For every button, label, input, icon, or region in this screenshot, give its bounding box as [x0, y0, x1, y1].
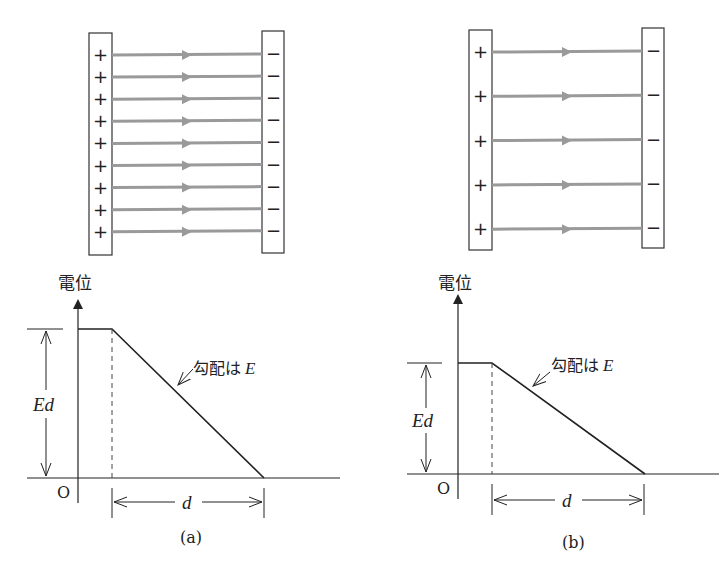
axis-label-potential-a: 電位: [58, 273, 92, 293]
field-arrow-icon: [562, 91, 572, 101]
plus-charge: +: [93, 199, 108, 220]
capacitor-potential-diagram: +−+−+−+−+−+−+−+−+− +−+−+−+−+− 電位 Ed O d …: [0, 0, 728, 572]
plus-charge: +: [473, 130, 488, 151]
field-arrow-icon: [182, 161, 192, 171]
minus-charge: −: [266, 131, 281, 152]
minus-charge: −: [266, 65, 281, 86]
minus-charge: −: [266, 154, 281, 175]
minus-charge: −: [266, 220, 281, 241]
caption-b: (b): [562, 533, 585, 552]
field-arrow-icon: [182, 94, 192, 104]
field-lines-b: +−+−+−+−+−: [473, 40, 661, 239]
plus-charge: +: [93, 177, 108, 198]
potential-graph-a: 電位 Ed O d 勾配は E (a): [27, 273, 340, 547]
plus-charge: +: [93, 221, 108, 242]
slope-pointer-a: [178, 369, 193, 385]
minus-charge: −: [266, 198, 281, 219]
plus-charge: +: [93, 66, 108, 87]
minus-charge: −: [266, 87, 281, 108]
slope-label-a: 勾配は: [193, 359, 241, 378]
origin-label-a: O: [57, 483, 70, 502]
field-arrow-icon: [562, 136, 572, 146]
plus-charge: +: [473, 174, 488, 195]
potential-graph-b: 電位 Ed O d 勾配は E (b): [407, 273, 719, 552]
capacitor-a: +−+−+−+−+−+−+−+−+−: [89, 31, 284, 255]
plus-charge: +: [93, 155, 108, 176]
d-label-a: d: [182, 492, 192, 513]
field-arrow-icon: [182, 205, 192, 215]
field-arrow-icon: [182, 72, 192, 82]
slope-label-b: 勾配は: [551, 356, 599, 375]
field-arrow-icon: [182, 138, 192, 148]
field-arrow-icon: [182, 183, 192, 193]
field-arrow-icon: [562, 224, 572, 234]
field-arrow-icon: [182, 50, 192, 60]
field-arrow-icon: [562, 180, 572, 190]
minus-charge: −: [646, 40, 661, 61]
slope-symbol-a: E: [244, 359, 256, 378]
minus-charge: −: [646, 129, 661, 150]
origin-label-b: O: [437, 479, 450, 498]
axis-label-potential-b: 電位: [438, 273, 472, 293]
minus-charge: −: [646, 173, 661, 194]
plus-charge: +: [93, 110, 108, 131]
minus-charge: −: [266, 176, 281, 197]
minus-charge: −: [266, 109, 281, 130]
slope-pointer-b: [533, 372, 550, 386]
plus-charge: +: [93, 132, 108, 153]
minus-charge: −: [646, 217, 661, 238]
potential-curve-a: [78, 329, 264, 478]
plus-charge: +: [93, 44, 108, 65]
field-arrow-icon: [562, 47, 572, 57]
plus-charge: +: [473, 41, 488, 62]
caption-a: (a): [180, 528, 202, 547]
slope-symbol-b: E: [602, 356, 614, 375]
plus-charge: +: [93, 88, 108, 109]
field-lines-a: +−+−+−+−+−+−+−+−+−: [93, 43, 281, 242]
ed-label-a: Ed: [32, 394, 55, 415]
d-label-b: d: [562, 490, 572, 511]
plus-charge: +: [473, 85, 488, 106]
capacitor-b: +−+−+−+−+−: [469, 28, 664, 250]
minus-charge: −: [266, 43, 281, 64]
ed-label-b: Ed: [411, 410, 434, 431]
potential-curve-b: [458, 363, 645, 474]
plus-charge: +: [473, 218, 488, 239]
field-arrow-icon: [182, 116, 192, 126]
minus-charge: −: [646, 84, 661, 105]
field-arrow-icon: [182, 227, 192, 237]
